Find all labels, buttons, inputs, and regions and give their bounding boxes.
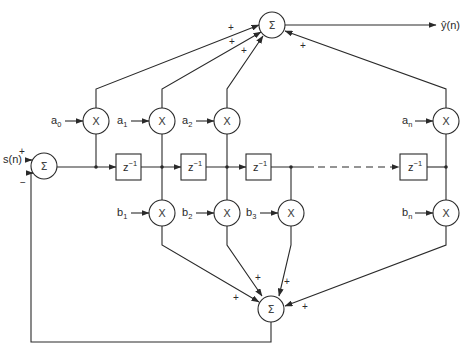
input-summer: Σ bbox=[31, 153, 57, 179]
sum-sign: + bbox=[241, 45, 247, 56]
input-plus-sign: + bbox=[19, 146, 25, 157]
delay-block-2: z−1 bbox=[181, 154, 206, 180]
multiply-icon: X bbox=[442, 207, 450, 220]
coeff-a2: a2 bbox=[182, 114, 192, 129]
filter-block-diagram: s(n) + − Σ z−1 z−1 z−1 z−1 bbox=[0, 0, 471, 350]
sigma-icon: Σ bbox=[269, 19, 276, 32]
output-label: ŷ(n) bbox=[441, 19, 460, 31]
coeff-b2: b2 bbox=[182, 206, 192, 221]
sum-sign: + bbox=[228, 22, 234, 33]
sum-sign: + bbox=[255, 272, 261, 283]
multiply-icon: X bbox=[158, 115, 166, 128]
b1-to-sum bbox=[162, 226, 259, 302]
sigma-icon: Σ bbox=[268, 303, 275, 316]
multiplier-bn: X bbox=[433, 200, 459, 226]
multiplier-b3: X bbox=[278, 200, 304, 226]
coeff-b1: b1 bbox=[117, 206, 127, 221]
an-to-sum bbox=[285, 31, 446, 108]
multiply-icon: X bbox=[287, 207, 295, 220]
delay-block-1: z−1 bbox=[116, 154, 141, 180]
coeff-bn: bn bbox=[402, 206, 412, 221]
delay-block-3: z−1 bbox=[246, 154, 271, 180]
feedback-minus-sign: − bbox=[20, 177, 26, 188]
multiplier-b2: X bbox=[214, 200, 240, 226]
feedback-summer: Σ bbox=[258, 296, 284, 322]
delay-block-n: z−1 bbox=[400, 154, 427, 180]
coeff-an: an bbox=[402, 114, 412, 129]
sum-sign: + bbox=[300, 40, 306, 51]
coeff-a1: a1 bbox=[117, 114, 127, 129]
bn-to-sum bbox=[285, 226, 446, 306]
sigma-icon: Σ bbox=[41, 160, 48, 173]
coeff-b3: b3 bbox=[246, 206, 256, 221]
multiplier-an: X bbox=[433, 108, 459, 134]
multiply-icon: X bbox=[223, 207, 231, 220]
multiply-icon: X bbox=[442, 115, 450, 128]
multiplier-a1: X bbox=[149, 108, 175, 134]
multiplier-b1: X bbox=[149, 200, 175, 226]
multiply-icon: X bbox=[92, 115, 100, 128]
b2-to-sum bbox=[227, 226, 262, 296]
multiplier-a0: X bbox=[83, 108, 109, 134]
coeff-a0: a0 bbox=[51, 114, 61, 129]
multiply-icon: X bbox=[223, 115, 231, 128]
sum-sign: + bbox=[229, 36, 235, 47]
multiply-icon: X bbox=[158, 207, 166, 220]
output-summer: Σ bbox=[259, 12, 285, 38]
sum-sign: + bbox=[284, 276, 290, 287]
sum-sign: + bbox=[302, 301, 308, 312]
multiplier-a2: X bbox=[214, 108, 240, 134]
sum-sign: + bbox=[233, 292, 239, 303]
